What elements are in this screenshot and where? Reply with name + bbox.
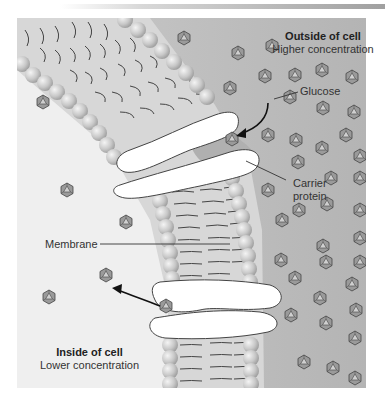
carrier-line2: protein bbox=[293, 190, 327, 202]
glucose-icon bbox=[43, 290, 55, 304]
glucose-icon bbox=[120, 215, 132, 229]
glucose-icon bbox=[293, 203, 305, 217]
glucose-icon bbox=[354, 255, 366, 269]
glucose-icon bbox=[349, 331, 361, 345]
glucose-label: Glucose bbox=[300, 85, 340, 98]
glucose-icon bbox=[327, 361, 339, 375]
glucose-icon bbox=[37, 95, 49, 109]
glucose-icon bbox=[350, 303, 362, 317]
glucose-icon bbox=[354, 171, 366, 185]
glucose-icon bbox=[316, 63, 328, 77]
glucose-icon bbox=[354, 231, 366, 245]
glucose-icon bbox=[317, 239, 329, 253]
inside-label: Inside of cell Lower concentration bbox=[40, 346, 139, 372]
glucose-icon bbox=[289, 68, 301, 82]
carrier-protein-label: Carrier protein bbox=[293, 177, 327, 203]
glucose-icon bbox=[290, 133, 302, 147]
outside-title: Outside of cell bbox=[285, 30, 361, 42]
glucose-icon bbox=[346, 277, 358, 291]
glucose-icon bbox=[160, 299, 172, 313]
carrier-line1: Carrier bbox=[293, 177, 327, 189]
glucose-icon bbox=[276, 213, 288, 227]
glucose-icon bbox=[320, 255, 332, 269]
glucose-icon bbox=[340, 128, 352, 142]
glucose-icon bbox=[316, 141, 328, 155]
glucose-icon bbox=[262, 128, 274, 142]
glucose-icon bbox=[262, 183, 274, 197]
glucose-icon bbox=[314, 291, 326, 305]
glucose-icon bbox=[178, 31, 190, 45]
glucose-icon bbox=[275, 253, 287, 267]
glucose-icon bbox=[284, 90, 296, 104]
inside-subtitle: Lower concentration bbox=[40, 359, 139, 371]
outside-label: Outside of cell Higher concentration bbox=[268, 30, 378, 56]
glucose-icon bbox=[292, 155, 304, 169]
glucose-icon bbox=[61, 183, 73, 197]
glucose-icon bbox=[100, 268, 112, 282]
glucose-icon bbox=[354, 149, 366, 163]
glucose-icon bbox=[298, 355, 310, 369]
facilitated-diffusion-diagram bbox=[0, 0, 385, 402]
glucose-icon bbox=[317, 101, 329, 115]
glucose-icon bbox=[285, 308, 297, 322]
glucose-icon bbox=[320, 316, 332, 330]
glucose-icon bbox=[232, 46, 244, 60]
glucose-icon bbox=[289, 271, 301, 285]
outside-subtitle: Higher concentration bbox=[272, 43, 374, 55]
glucose-icon bbox=[349, 371, 361, 385]
glucose-icon bbox=[224, 81, 236, 95]
glucose-icon bbox=[226, 132, 238, 146]
glucose-icon bbox=[346, 70, 358, 84]
inside-title: Inside of cell bbox=[56, 346, 123, 358]
glucose-icon bbox=[354, 203, 366, 217]
membrane-label: Membrane bbox=[45, 238, 98, 251]
glucose-icon bbox=[259, 69, 271, 83]
glucose-icon bbox=[348, 105, 360, 119]
